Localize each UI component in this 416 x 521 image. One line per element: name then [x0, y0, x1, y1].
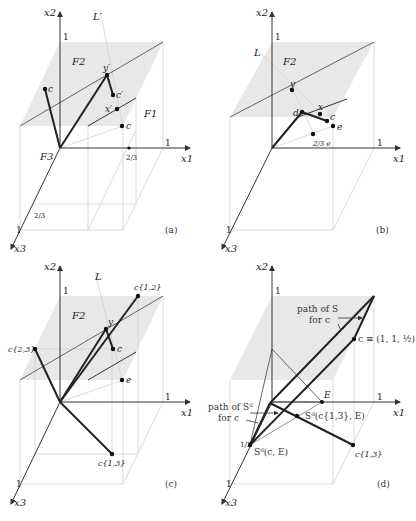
panel-c: x2 x1 x3 1 1 1 F2 L c{1,2} c{2,3} y c e …	[8, 261, 193, 508]
panel-b: x2 x1 x3 1 1 1 F2 L y d x c e 2/3 e (b)	[222, 7, 405, 254]
label-y-prime: y′	[102, 63, 110, 73]
x1-axis-label: x1	[181, 153, 193, 164]
point-d	[300, 110, 304, 114]
x1-axis-label: x1	[393, 153, 405, 164]
point-c-prime	[111, 93, 115, 97]
label-c13: c{1,3}	[355, 450, 382, 459]
line-L-label: L	[253, 47, 261, 58]
x3-axis-label: x3	[14, 497, 26, 508]
tick-x1-1: 1	[165, 138, 171, 148]
x2-axis-label: x2	[256, 261, 268, 272]
x1-axis-label: x1	[393, 407, 405, 418]
label-path-Sd-for: for c	[218, 413, 239, 423]
label-x: x	[318, 102, 323, 112]
point-c	[111, 347, 115, 351]
point-c13	[351, 443, 355, 447]
tick-x2-1: 1	[275, 286, 281, 296]
label-c-bottom: c	[126, 121, 131, 131]
face-F2-label: F2	[71, 56, 85, 67]
point-y	[104, 327, 108, 331]
figure-canvas: x2 x1 x3 1 1 2/3 2/3 1 F2 F1 F3 L′ c y′ …	[0, 0, 416, 521]
label-two-thirds-e: 2/3 e	[312, 140, 331, 148]
point-c-bottom	[120, 124, 124, 128]
tick-x2-1: 1	[275, 32, 281, 42]
label-y: y	[289, 79, 296, 89]
x3-axis-label: x3	[225, 497, 237, 508]
x2-axis-label: x2	[44, 7, 56, 18]
point-y-prime	[105, 73, 109, 77]
tick-x3-1: 1	[16, 225, 22, 235]
point-E	[320, 400, 324, 404]
point-e	[331, 124, 335, 128]
tick-x1-1: 1	[165, 392, 171, 402]
caption-a: (a)	[165, 225, 177, 235]
face-F1-label: F1	[143, 108, 157, 119]
label-d: d	[293, 108, 299, 118]
caption-d: (d)	[377, 479, 390, 489]
face-F3-label: F3	[39, 151, 53, 162]
point-x	[318, 112, 322, 116]
label-path-S: path of S	[297, 304, 338, 314]
label-E: E	[323, 390, 331, 400]
tick-x1-1: 1	[377, 138, 383, 148]
tick-x2-1: 1	[63, 286, 69, 296]
label-c-equiv: c ≡ (1, 1, ½)	[358, 334, 415, 344]
label-c: c	[117, 344, 122, 354]
tick-x3-1: 1	[226, 479, 232, 489]
point-c	[325, 119, 329, 123]
label-e: e	[337, 122, 342, 132]
label-path-S-for: for c	[309, 315, 330, 325]
panel-a: x2 x1 x3 1 1 2/3 2/3 1 F2 F1 F3 L′ c y′ …	[11, 7, 193, 254]
label-e: e	[126, 375, 131, 385]
caption-b: (b)	[376, 225, 389, 235]
face-F2-label: F2	[282, 56, 296, 67]
point-e	[120, 378, 124, 382]
point-c12	[136, 294, 140, 298]
tick-x3-1: 1	[16, 479, 22, 489]
label-c13: c{1,3}	[98, 459, 125, 468]
point-Sd-c13-E	[295, 414, 299, 418]
tick-x3-half: 1/2	[240, 441, 251, 449]
point-two-thirds-e	[311, 132, 315, 136]
label-Sd-c-E: Sᵈ(c, E)	[254, 447, 288, 457]
point-c13	[110, 452, 114, 456]
label-c12: c{1,2}	[134, 283, 161, 292]
x3-axis-label: x3	[225, 243, 237, 254]
label-c23: c{2,3}	[8, 345, 35, 354]
label-x-prime: x′	[105, 104, 112, 114]
point-x-prime	[115, 107, 119, 111]
x2-axis-label: x2	[44, 261, 56, 272]
line-L-label: L	[94, 271, 102, 282]
x2-axis-label: x2	[256, 7, 268, 18]
label-c: c	[48, 84, 53, 94]
point-c	[43, 87, 47, 91]
tick-x3-1: 1	[226, 225, 232, 235]
tick-x3-2-3: 2/3	[34, 212, 45, 220]
tick-x2-1: 1	[63, 32, 69, 42]
label-c: c	[330, 112, 335, 122]
tick-x1-1: 1	[377, 392, 383, 402]
label-y: y	[107, 317, 114, 327]
x1-axis-label: x1	[181, 407, 193, 418]
caption-c: (c)	[165, 479, 177, 489]
tick-x1-2-3: 2/3	[126, 154, 137, 162]
panel-d: x2 x1 x3 1 1 1/2 1 path of S for c c ≡ (…	[208, 261, 415, 508]
line-L-prime-label: L′	[92, 11, 103, 22]
face-F2-label: F2	[71, 310, 85, 321]
label-path-Sd: path of Sᵈ	[208, 402, 253, 412]
label-Sd-c13-E: Sᵈ(c{1,3}, E)	[305, 411, 365, 421]
x3-axis-label: x3	[14, 243, 26, 254]
label-c-prime: c′	[116, 90, 123, 100]
point-c	[352, 337, 356, 341]
